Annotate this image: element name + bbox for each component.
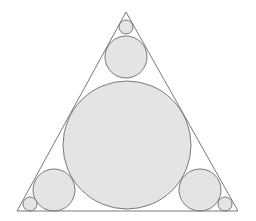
circle-incircle-large (63, 81, 191, 209)
circles-group (23, 20, 232, 211)
diagram-canvas (0, 0, 256, 221)
circle-top-small (119, 20, 133, 34)
circle-left-medium (33, 169, 75, 211)
circle-right-small (218, 197, 232, 211)
circle-left-small (23, 197, 37, 211)
circle-right-medium (179, 169, 221, 211)
circle-top-medium (105, 36, 147, 78)
diagram-svg (0, 0, 256, 221)
